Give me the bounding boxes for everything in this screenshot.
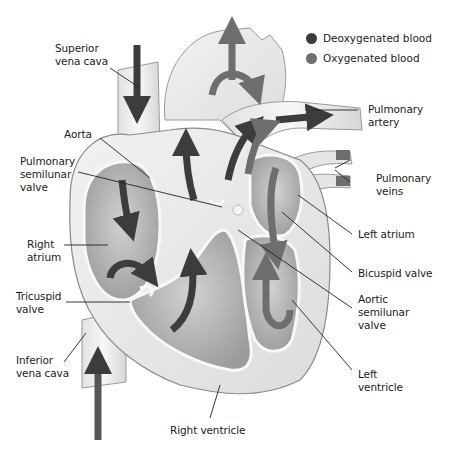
- label-line: valve: [20, 181, 75, 194]
- label-line: Left atrium: [358, 228, 415, 241]
- label-line: atrium: [27, 251, 61, 264]
- label-left-atrium: Left atrium: [358, 228, 415, 241]
- label-line: veins: [376, 185, 431, 198]
- label-right-atrium: Right atrium: [27, 238, 61, 264]
- label-aortic-semilunar-valve: Aortic semilunar valve: [358, 293, 409, 332]
- label-pulmonary-veins: Pulmonary veins: [376, 172, 431, 198]
- label-pulmonary-artery: Pulmonary artery: [368, 103, 423, 129]
- label-line: Right ventricle: [170, 424, 245, 437]
- label-line: Pulmonary: [368, 103, 423, 116]
- label-line: Right: [27, 238, 61, 251]
- legend-label: Oxygenated blood: [323, 52, 420, 64]
- label-line: Aorta: [64, 128, 92, 141]
- label-line: Left: [358, 368, 403, 381]
- label-line: artery: [368, 116, 423, 129]
- label-line: Inferior: [16, 354, 69, 367]
- label-line: Aortic: [358, 293, 409, 306]
- deoxygenated-swatch-icon: [306, 33, 317, 44]
- label-inferior-vena-cava: Inferior vena cava: [16, 354, 69, 380]
- legend-item-oxygenated: Oxygenated blood: [306, 48, 432, 68]
- legend-item-deoxygenated: Deoxygenated blood: [306, 28, 432, 48]
- label-left-ventricle: Left ventricle: [358, 368, 403, 394]
- label-line: ventricle: [358, 381, 403, 394]
- label-pulmonary-semilunar-valve: Pulmonary semilunar valve: [20, 155, 75, 194]
- label-line: semilunar: [20, 168, 75, 181]
- label-tricuspid-valve: Tricuspid valve: [16, 290, 61, 316]
- label-line: valve: [16, 303, 61, 316]
- label-line: Pulmonary: [376, 172, 431, 185]
- label-line: Pulmonary: [20, 155, 75, 168]
- heart-diagram: Deoxygenated blood Oxygenated blood Supe…: [0, 0, 449, 450]
- legend-label: Deoxygenated blood: [323, 32, 432, 44]
- label-line: Tricuspid: [16, 290, 61, 303]
- label-right-ventricle: Right ventricle: [170, 424, 245, 437]
- label-line: Bicuspid valve: [358, 267, 432, 280]
- oxygenated-swatch-icon: [306, 53, 317, 64]
- label-superior-vena-cava: Superior vena cava: [55, 42, 108, 68]
- label-line: valve: [358, 319, 409, 332]
- label-line: Superior: [55, 42, 108, 55]
- label-line: vena cava: [55, 55, 108, 68]
- label-line: vena cava: [16, 367, 69, 380]
- label-line: semilunar: [358, 306, 409, 319]
- label-aorta: Aorta: [64, 128, 92, 141]
- label-bicuspid-valve: Bicuspid valve: [358, 267, 432, 280]
- legend: Deoxygenated blood Oxygenated blood: [306, 28, 432, 68]
